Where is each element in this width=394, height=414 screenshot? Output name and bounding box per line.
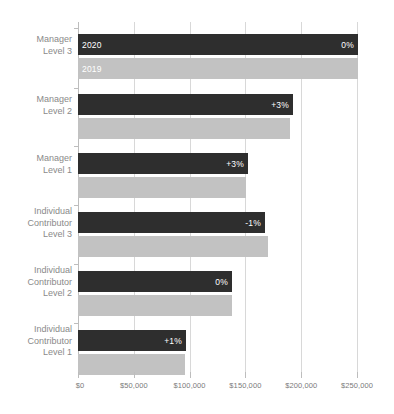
x-tickmark-0: [78, 372, 79, 378]
category-label-individual-contributor-level-2: Individual Contributor Level 2: [27, 265, 78, 300]
x-axis-label-200000: $200,000: [285, 381, 317, 390]
bar-2019-manager-level-1[interactable]: [78, 177, 246, 198]
bar-2019-individual-contributor-level-1[interactable]: [78, 354, 185, 375]
bar-value-label-manager-level-1: +3%: [226, 159, 244, 169]
bar-2019-manager-level-3[interactable]: 2019: [78, 58, 358, 79]
x-tickmark-100000: [190, 372, 191, 378]
bar-value-label-manager-level-3: 0%: [341, 40, 354, 50]
y-tick-manager-level-3: [74, 28, 78, 29]
bar-2019-individual-contributor-level-3[interactable]: [78, 236, 268, 257]
bar-2019-individual-contributor-level-2[interactable]: [78, 295, 232, 316]
bar-value-label-individual-contributor-level-2: 0%: [215, 277, 228, 287]
x-tickmark-50000: [134, 372, 135, 378]
bar-2020-individual-contributor-level-3[interactable]: -1%: [78, 212, 265, 233]
category-label-manager-level-2: Manager Level 2: [36, 94, 78, 117]
bar-series-label-2020: 2020: [82, 40, 102, 50]
x-axis-label-0: $0: [76, 381, 85, 390]
x-tickmark-250000: [357, 372, 358, 378]
category-label-manager-level-3: Manager Level 3: [36, 34, 78, 57]
category-label-individual-contributor-level-1: Individual Contributor Level 1: [27, 324, 78, 359]
bar-2020-manager-level-3[interactable]: 2020 0%: [78, 34, 358, 55]
bar-value-label-manager-level-2: +3%: [271, 100, 289, 110]
y-tick-manager-level-1: [74, 146, 78, 147]
y-tick-manager-level-2: [74, 88, 78, 89]
x-tickmark-150000: [245, 372, 246, 378]
category-label-individual-contributor-level-3: Individual Contributor Level 3: [27, 206, 78, 241]
bar-series-label-2019: 2019: [82, 64, 102, 74]
bar-value-label-individual-contributor-level-1: +1%: [164, 336, 182, 346]
bar-2020-individual-contributor-level-1[interactable]: +1%: [78, 330, 186, 351]
bar-2019-manager-level-2[interactable]: [78, 118, 290, 139]
bar-value-label-individual-contributor-level-3: -1%: [245, 218, 261, 228]
x-axis-label-150000: $150,000: [229, 381, 261, 390]
bar-2020-manager-level-2[interactable]: +3%: [78, 94, 293, 115]
bar-2020-manager-level-1[interactable]: +3%: [78, 153, 248, 174]
x-axis-label-100000: $100,000: [174, 381, 206, 390]
x-axis-label-250000: $250,000: [341, 381, 373, 390]
category-label-manager-level-1: Manager Level 1: [36, 153, 78, 176]
bar-2020-individual-contributor-level-2[interactable]: 0%: [78, 271, 232, 292]
x-axis-label-50000: $50,000: [120, 381, 148, 390]
plot-area: 2020 0% 2019 +3% +3% -1% 0% +1%: [78, 22, 357, 372]
salary-by-level-bar-chart: 2020 0% 2019 +3% +3% -1% 0% +1%: [0, 0, 394, 414]
x-tickmark-200000: [301, 372, 302, 378]
